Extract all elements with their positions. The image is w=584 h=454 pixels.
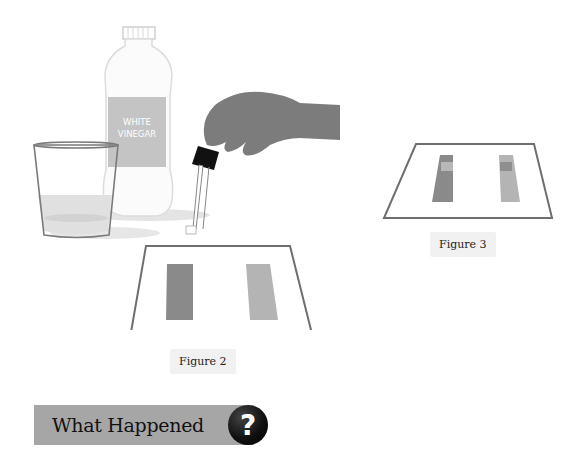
section-header: What Happened bbox=[34, 405, 254, 445]
strip-dark bbox=[166, 264, 193, 320]
figure-2-illustration: WHITE VINEGAR bbox=[0, 0, 340, 330]
dropper-icon bbox=[186, 146, 219, 234]
figure-3-illustration bbox=[380, 140, 580, 230]
question-mark-glyph: ? bbox=[240, 409, 256, 442]
figure-2-caption: Figure 2 bbox=[170, 349, 236, 374]
section-title: What Happened bbox=[52, 414, 204, 436]
figure-3-caption: Figure 3 bbox=[430, 232, 496, 257]
svg-text:VINEGAR: VINEGAR bbox=[118, 129, 156, 139]
svg-text:WHITE: WHITE bbox=[123, 117, 151, 127]
question-mark-icon: ? bbox=[228, 405, 268, 445]
hand-icon bbox=[204, 92, 340, 156]
paper-figure-2 bbox=[130, 246, 313, 330]
spot-dark bbox=[500, 162, 512, 171]
spot-light bbox=[441, 162, 453, 171]
